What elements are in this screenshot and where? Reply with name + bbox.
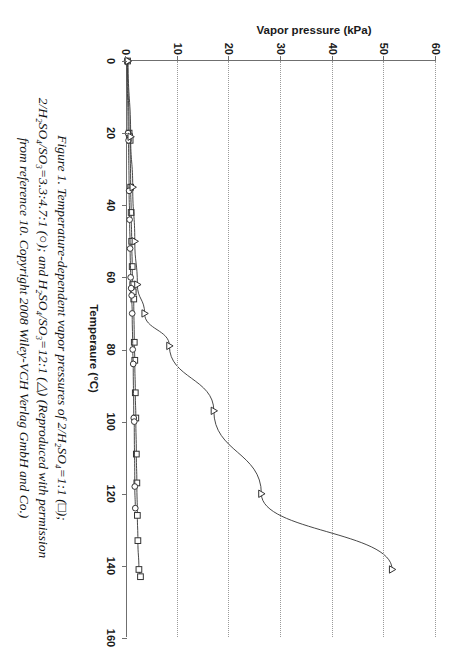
data-point-circle <box>129 293 135 299</box>
data-point-square <box>135 538 141 544</box>
plot-area: 0204060801001201401600102030405060 <box>126 60 436 637</box>
x-tick-160 <box>122 638 127 639</box>
caption-line-2: 2/H₂SO₄/SO₃=3.3:4.7:1 (○); and H₂SO₄/SO₃… <box>34 24 53 632</box>
caption-line-1: Figure 1. Temperature-dependent vapor pr… <box>53 24 72 632</box>
gridline-y-20 <box>228 61 229 637</box>
x-tick-60 <box>122 277 127 278</box>
series-2-triangle <box>125 57 395 573</box>
x-tick-40 <box>122 205 127 206</box>
x-tick-label-120: 120 <box>105 485 117 503</box>
data-point-circle <box>132 484 138 490</box>
x-tick-label-60: 60 <box>105 271 117 283</box>
data-point-circle <box>127 217 133 223</box>
data-point-circle <box>128 285 134 291</box>
y-tick-10 <box>177 56 178 61</box>
gridline-y-50 <box>383 61 384 637</box>
data-point-circle <box>130 361 136 367</box>
x-tick-label-20: 20 <box>105 127 117 139</box>
x-tick-label-80: 80 <box>105 343 117 355</box>
x-tick-label-140: 140 <box>105 557 117 575</box>
x-tick-0 <box>122 61 127 62</box>
x-tick-label-160: 160 <box>105 629 117 647</box>
x-tick-label-100: 100 <box>105 412 117 430</box>
y-tick-40 <box>332 56 333 61</box>
y-tick-20 <box>228 56 229 61</box>
x-tick-140 <box>122 566 127 567</box>
plot-svg <box>126 61 436 638</box>
data-point-circle <box>130 347 136 353</box>
x-tick-label-0: 0 <box>105 58 117 64</box>
data-point-circle <box>127 246 133 252</box>
y-tick-0 <box>125 56 126 61</box>
x-tick-80 <box>122 350 127 351</box>
y-axis-title: Vapor pressure (kPa) <box>159 24 460 36</box>
data-point-circle <box>129 311 135 317</box>
gridline-y-30 <box>280 61 281 637</box>
y-tick-label-0: 0 <box>120 31 132 55</box>
figure-rotation-wrapper: 0204060801001201401600102030405060 Tempe… <box>0 0 460 656</box>
figure-caption: Figure 1. Temperature-dependent vapor pr… <box>15 24 72 632</box>
y-tick-30 <box>280 56 281 61</box>
data-point-square <box>136 567 142 573</box>
data-point-square <box>135 513 141 519</box>
x-tick-20 <box>122 133 127 134</box>
x-tick-100 <box>122 422 127 423</box>
figure: 0204060801001201401600102030405060 Tempe… <box>0 0 460 656</box>
gridline-y-40 <box>332 61 333 637</box>
data-point-triangle <box>132 238 138 245</box>
data-point-square <box>138 574 144 580</box>
gridline-y-10 <box>177 61 178 637</box>
gridline-y-60 <box>435 61 436 637</box>
y-tick-60 <box>435 56 436 61</box>
data-point-circle <box>131 419 137 425</box>
y-tick-50 <box>383 56 384 61</box>
data-point-circle <box>132 505 138 511</box>
data-point-triangle <box>389 566 395 573</box>
x-tick-120 <box>122 494 127 495</box>
caption-line-3: from reference 10. Copyright 2008 Wiley-… <box>15 24 34 632</box>
x-tick-label-40: 40 <box>105 199 117 211</box>
x-axis-title: Temperaure (°C) <box>88 60 100 637</box>
data-point-circle <box>128 275 134 281</box>
